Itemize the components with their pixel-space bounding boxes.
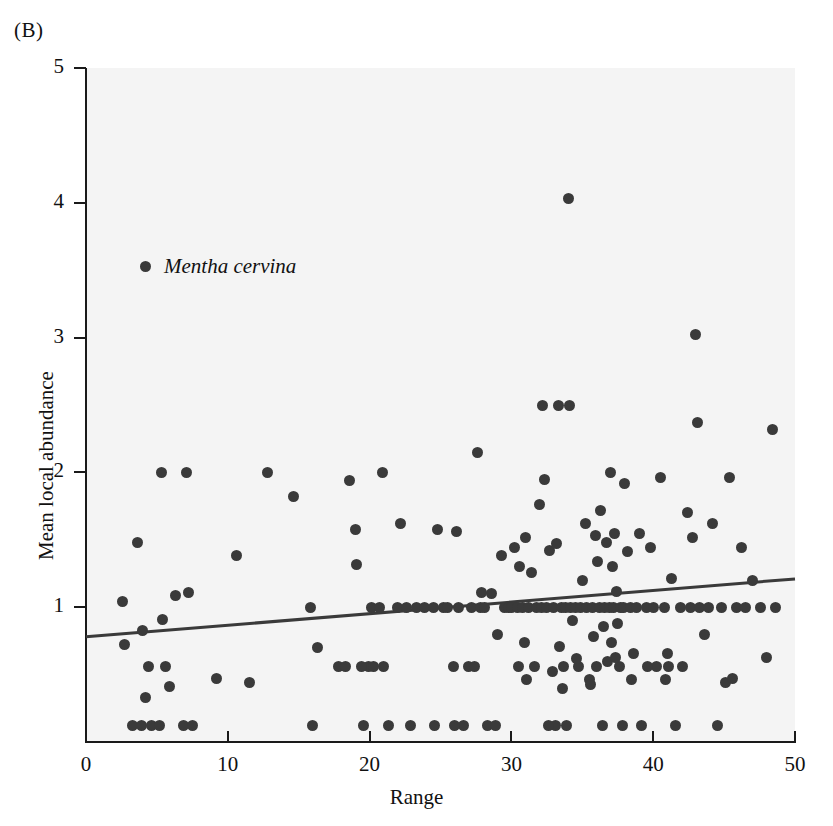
data-point [156, 467, 167, 478]
data-point [595, 505, 606, 516]
data-point [655, 472, 666, 483]
data-point [132, 537, 143, 548]
x-tick-group: 01020304050 [0, 0, 833, 826]
data-point [451, 526, 462, 537]
data-point [703, 602, 714, 613]
x-tick-label: 40 [633, 752, 673, 777]
x-tick-mark [510, 731, 512, 743]
data-point [519, 637, 530, 648]
data-point [747, 575, 758, 586]
data-point [244, 677, 255, 688]
data-point [374, 602, 385, 613]
data-point [761, 652, 772, 663]
data-point [140, 692, 151, 703]
data-point [557, 683, 568, 694]
data-point [675, 602, 686, 613]
x-tick-mark [652, 731, 654, 743]
data-point [591, 661, 602, 672]
data-point [183, 587, 194, 598]
data-point [554, 641, 565, 652]
data-point [648, 602, 659, 613]
data-point [262, 467, 273, 478]
x-tick-mark [794, 731, 796, 743]
data-point [181, 467, 192, 478]
data-point [687, 532, 698, 543]
data-point [312, 642, 323, 653]
data-point [692, 417, 703, 428]
data-point [580, 518, 591, 529]
data-point [553, 400, 564, 411]
data-point [340, 661, 351, 672]
data-point [432, 524, 443, 535]
data-point [170, 590, 181, 601]
data-point [611, 586, 622, 597]
data-point [659, 602, 670, 613]
data-point [619, 478, 630, 489]
x-tick-mark [369, 731, 371, 743]
data-point [448, 661, 459, 672]
data-point [617, 720, 628, 731]
x-tick-label: 50 [775, 752, 815, 777]
data-point [712, 720, 723, 731]
data-point [137, 625, 148, 636]
data-point [537, 400, 548, 411]
data-point [520, 532, 531, 543]
data-point [157, 614, 168, 625]
data-point [356, 661, 367, 672]
data-point [567, 615, 578, 626]
data-point [577, 575, 588, 586]
data-point [564, 400, 575, 411]
legend-marker-icon [140, 261, 151, 272]
data-point [377, 467, 388, 478]
data-point [609, 528, 620, 539]
plot-shell: 12345 01020304050 Mentha cervina Mean lo… [0, 0, 833, 826]
data-point [350, 524, 361, 535]
data-point [305, 602, 316, 613]
data-point [143, 661, 154, 672]
data-point [736, 542, 747, 553]
y-axis-label: Mean local abundance [34, 371, 59, 560]
data-point [606, 637, 617, 648]
data-point [770, 602, 781, 613]
data-point [539, 474, 550, 485]
data-point [492, 629, 503, 640]
data-point [699, 629, 710, 640]
x-tick-label: 0 [66, 752, 106, 777]
data-point [598, 621, 609, 632]
data-point [597, 720, 608, 731]
data-point [383, 720, 394, 731]
data-point [513, 661, 524, 672]
data-point [605, 467, 616, 478]
data-point [601, 537, 612, 548]
data-point [288, 491, 299, 502]
data-point [160, 661, 171, 672]
data-point [740, 602, 751, 613]
data-point [571, 653, 582, 664]
data-point [634, 528, 645, 539]
x-tick-label: 10 [208, 752, 248, 777]
data-point [682, 507, 693, 518]
x-axis-label: Range [0, 785, 833, 810]
data-point [716, 602, 727, 613]
data-point [442, 602, 453, 613]
data-point [607, 561, 618, 572]
x-tick-mark [227, 731, 229, 743]
data-point [614, 661, 625, 672]
legend-series-label: Mentha cervina [164, 254, 296, 279]
data-point [479, 602, 490, 613]
data-point [563, 193, 574, 204]
data-point [662, 648, 673, 659]
data-point [590, 530, 601, 541]
figure-panel: (B) 12345 01020304050 Mentha cervina Mea… [0, 0, 833, 826]
data-point [642, 661, 653, 672]
data-point [351, 559, 362, 570]
data-point [585, 679, 596, 690]
x-tick-label: 20 [350, 752, 390, 777]
data-point [526, 567, 537, 578]
data-point [767, 424, 778, 435]
x-tick-label: 30 [491, 752, 531, 777]
data-point [529, 661, 540, 672]
legend: Mentha cervina [140, 254, 296, 279]
data-point [469, 661, 480, 672]
data-point [628, 648, 639, 659]
